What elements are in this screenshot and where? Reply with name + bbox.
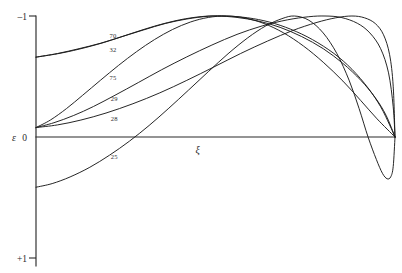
curve-label-29: 29 bbox=[111, 95, 118, 102]
curve-label-25: 25 bbox=[111, 153, 118, 160]
curve-label-70: 70 bbox=[110, 32, 117, 39]
curve-label-75: 75 bbox=[110, 74, 117, 81]
curve-labels-group: 703275292825 bbox=[110, 32, 119, 160]
y-tick-bottom-label: +1 bbox=[17, 254, 27, 264]
curve-label-32: 32 bbox=[110, 46, 117, 53]
y-tick-origin-label: 0 bbox=[22, 133, 27, 143]
curve-32 bbox=[36, 16, 395, 137]
curve-29 bbox=[36, 16, 395, 137]
curve-70 bbox=[36, 16, 395, 137]
y-axis-title: ε bbox=[12, 132, 16, 143]
curve-28 bbox=[36, 16, 395, 137]
line-chart: 703275292825 –1 0 +1 ε ξ bbox=[0, 0, 402, 273]
curves-group bbox=[36, 16, 395, 187]
curve-25 bbox=[36, 16, 395, 187]
x-axis-title: ξ bbox=[195, 144, 200, 156]
axes-group bbox=[29, 16, 395, 266]
axis-labels-group: –1 0 +1 ε ξ bbox=[12, 12, 200, 265]
y-tick-top-label: –1 bbox=[17, 12, 28, 22]
figure-container: 703275292825 –1 0 +1 ε ξ bbox=[0, 0, 402, 273]
curve-75 bbox=[36, 16, 395, 137]
curve-label-28: 28 bbox=[111, 115, 118, 122]
